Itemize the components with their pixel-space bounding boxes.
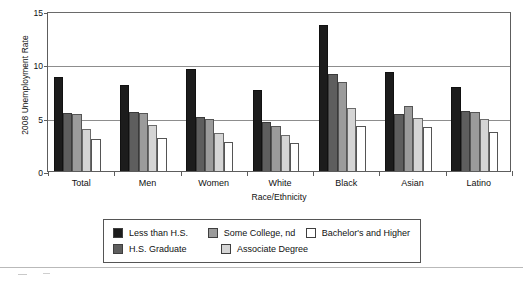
bar: [186, 69, 195, 171]
y-axis-tick-label: 0: [13, 169, 43, 178]
bar: [129, 112, 138, 171]
bar: [489, 132, 498, 171]
bar: [253, 90, 262, 171]
bar: [214, 133, 223, 171]
bar: [139, 113, 148, 171]
x-axis-tick-label-black: Black: [335, 178, 357, 188]
legend-item[interactable]: Associate Degree: [221, 241, 333, 257]
bar-group: [186, 13, 233, 171]
y-axis-tick-label: 15: [13, 9, 43, 18]
x-axis-tick-mark: [379, 171, 380, 176]
bar: [356, 126, 365, 171]
plot-area: 051015 TotalMenWomenWhiteBlackAsianLatin…: [47, 12, 511, 172]
x-axis-tick-label-men: Men: [139, 178, 157, 188]
legend-swatch-icon: [113, 228, 123, 238]
bar-group: [385, 13, 432, 171]
bar: [451, 87, 460, 171]
bar: [63, 113, 72, 171]
bar: [480, 119, 489, 171]
bar: [461, 111, 470, 171]
y-axis-tick-label: 5: [13, 115, 43, 124]
bar: [319, 25, 328, 171]
legend-swatch-icon: [113, 244, 123, 254]
bar: [423, 127, 432, 171]
x-axis-tick-mark: [313, 171, 314, 176]
legend-label: Less than H.S.: [129, 229, 188, 238]
bar: [262, 122, 271, 171]
legend-label: Some College, nd: [224, 229, 296, 238]
bar: [271, 126, 280, 171]
legend-item[interactable]: Bachelor's and Higher: [306, 225, 411, 241]
y-axis-tick-label: 10: [13, 62, 43, 71]
bar: [148, 125, 157, 171]
legend-item[interactable]: H.S. Graduate: [113, 241, 221, 257]
y-axis-title: 2008 Unemployment Rate: [20, 0, 30, 170]
bar: [413, 118, 422, 171]
x-axis-tick-mark: [181, 171, 182, 176]
legend-row-2: H.S. GraduateAssociate Degree: [113, 241, 411, 257]
bar: [281, 135, 290, 171]
bar: [120, 85, 129, 171]
bar: [224, 142, 233, 171]
bar: [205, 119, 214, 171]
x-axis-tick-label-women: Women: [198, 178, 229, 188]
bar: [404, 106, 413, 171]
legend-label: Bachelor's and Higher: [322, 229, 410, 238]
bar: [54, 77, 63, 171]
x-axis-tick-mark: [512, 171, 513, 176]
x-axis-title: Race/Ethnicity: [47, 192, 511, 202]
bar: [328, 74, 337, 171]
bar: [347, 108, 356, 171]
x-axis-tick-mark: [446, 171, 447, 176]
page-edge-line: [0, 267, 523, 268]
bar: [338, 82, 347, 171]
x-axis-tick-mark: [114, 171, 115, 176]
bar: [72, 114, 81, 171]
chart-figure: 2008 Unemployment Rate 051015 TotalMenWo…: [0, 0, 523, 284]
bar: [385, 72, 394, 171]
legend-item[interactable]: Some College, nd: [208, 225, 306, 241]
legend-swatch-icon: [208, 228, 218, 238]
bar: [82, 129, 91, 171]
bar-group: [451, 13, 498, 171]
x-axis-tick-label-white: White: [268, 178, 291, 188]
page-artifact-mark: [43, 273, 50, 274]
x-axis-tick-label-total: Total: [72, 178, 91, 188]
bar: [470, 112, 479, 171]
plot-wrapper: 2008 Unemployment Rate 051015 TotalMenWo…: [0, 0, 523, 212]
x-axis-tick-label-asian: Asian: [401, 178, 424, 188]
bar-group: [253, 13, 300, 171]
legend-swatch-icon: [306, 228, 316, 238]
x-axis-tick-mark: [48, 171, 49, 176]
legend-label: H.S. Graduate: [129, 245, 187, 254]
page-artifact-mark: [18, 274, 27, 275]
bar-group: [120, 13, 167, 171]
bar-group: [54, 13, 101, 171]
legend-row-1: Less than H.S.Some College, ndBachelor's…: [113, 225, 411, 241]
bar: [196, 117, 205, 171]
legend-label: Associate Degree: [237, 245, 308, 254]
bar-group: [319, 13, 366, 171]
bar: [91, 139, 100, 171]
legend-item[interactable]: Less than H.S.: [113, 225, 208, 241]
x-axis-tick-mark: [247, 171, 248, 176]
bar: [290, 143, 299, 171]
chart-legend: Less than H.S.Some College, ndBachelor's…: [103, 219, 421, 263]
legend-swatch-icon: [221, 244, 231, 254]
bar: [157, 138, 166, 171]
x-axis-tick-label-latino: Latino: [467, 178, 492, 188]
bar: [394, 114, 403, 171]
bars-layer: [48, 13, 510, 171]
